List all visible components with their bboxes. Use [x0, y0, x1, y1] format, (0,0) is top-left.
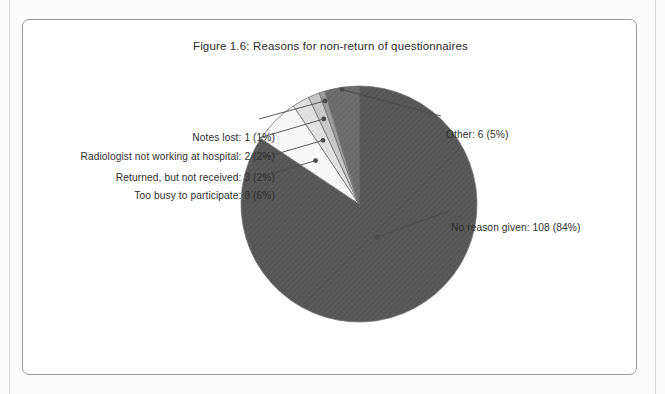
slice-label-no-reason-given: No reason given: 108 (84%): [451, 222, 580, 233]
slice-label-radiologist-not-working: Radiologist not working at hospital: 2 (…: [23, 151, 275, 162]
pie-slices: [241, 86, 477, 322]
leader-dot: [340, 87, 345, 92]
leader-dot: [374, 235, 379, 240]
leader-dot: [313, 158, 318, 163]
leader-dot: [323, 99, 328, 104]
figure-frame: Figure 1.6: Reasons for non-return of qu…: [22, 19, 637, 375]
slice-label-too-busy: Too busy to participate: 8 (6%): [23, 190, 275, 201]
leader-dot: [321, 117, 326, 122]
slice-label-notes-lost: Notes lost: 1 (1%): [23, 132, 275, 143]
page-canvas: Figure 1.6: Reasons for non-return of qu…: [0, 0, 665, 394]
slice-label-returned-not-received: Returned, but not received: 3 (2%): [23, 172, 275, 183]
leader-dot: [321, 138, 326, 143]
slice-label-other: Other: 6 (5%): [446, 129, 508, 140]
